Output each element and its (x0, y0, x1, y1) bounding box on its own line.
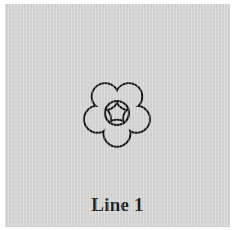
stimulus-card: Line 1 (0, 0, 234, 230)
flower-outline-icon (81, 74, 153, 150)
stimulus-panel: Line 1 (5, 4, 230, 227)
figure-area (5, 4, 230, 184)
figure-caption: Line 1 (5, 194, 230, 216)
